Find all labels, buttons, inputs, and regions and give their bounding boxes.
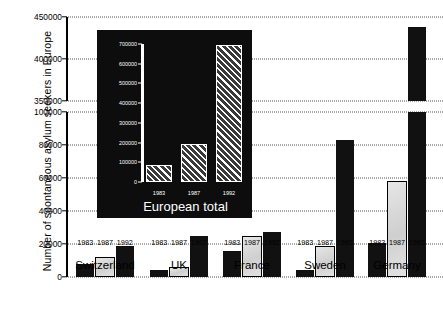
x-axis-year-label: 1983 [76, 238, 95, 247]
y-axis-tick-label: 40000 [39, 206, 62, 216]
x-axis-year-label: 1983 [223, 238, 242, 247]
x-axis-year-label: 1987 [96, 238, 115, 247]
inset-bar-1992[interactable] [216, 45, 242, 182]
x-axis-year-label: 1983 [368, 238, 387, 247]
inset-caption: European total [123, 199, 248, 214]
y-axis-tick-labels: 4500004000003500001000008000060000400002… [14, 0, 62, 325]
inset-y-tick-label: 100000 [97, 159, 137, 165]
bar-group-bars [368, 0, 426, 277]
inset-y-tick-label: 600000 [97, 61, 137, 67]
x-axis-year-labels: 198319871992 [368, 238, 426, 247]
inset-y-tick-label: 700000 [97, 41, 137, 47]
y-axis-segment [66, 112, 68, 277]
bar-sweden-1983[interactable] [296, 270, 314, 277]
bar-group-bars [296, 0, 354, 277]
x-axis-year-labels: 198319871992 [223, 238, 281, 247]
bar-sweden-1992[interactable] [336, 140, 354, 277]
x-axis-year-label: 1992 [262, 238, 281, 247]
inset-european-total-chart: 7000006000005000004000003000002000001000… [97, 30, 252, 218]
y-axis-tick-label: 350000 [34, 96, 62, 106]
bar-group-sweden: 198319871992Sweden [296, 0, 354, 277]
inset-y-tick-mark [138, 63, 142, 64]
bar-segment-lower [408, 112, 426, 277]
x-axis-year-label: 1987 [243, 238, 262, 247]
inset-y-tick-label: 400000 [97, 100, 137, 106]
bar-group-germany: 198319871992Germany [368, 0, 426, 277]
inset-y-tick-mark [138, 162, 142, 163]
x-axis-year-label: 1992 [115, 238, 134, 247]
x-axis-year-label: 1992 [407, 238, 426, 247]
inset-bar-1983[interactable] [146, 165, 172, 182]
inset-plot-area [146, 44, 242, 182]
asylum-seekers-bar-chart: Number of spontaneous asylum seekers in … [0, 0, 443, 325]
y-axis-segment [66, 17, 68, 101]
y-axis-tick-label: 100000 [34, 107, 62, 117]
inset-y-tick-label: 0 [97, 179, 137, 185]
x-axis-year-label: 1983 [150, 238, 169, 247]
x-axis-year-label: 1992 [189, 238, 208, 247]
x-axis-year-label: 1992 [335, 238, 354, 247]
inset-bar-1987[interactable] [181, 144, 207, 182]
x-axis-year-label: 1987 [170, 238, 189, 247]
y-axis-tick-label: 450000 [34, 12, 62, 22]
inset-y-tick-mark [138, 122, 142, 123]
x-axis-year-label: 1983 [296, 238, 315, 247]
inset-y-tick-label: 500000 [97, 80, 137, 86]
bar-segment-upper [408, 27, 426, 101]
x-axis-year-labels: 198319871992 [150, 238, 208, 247]
inset-year-label: 1987 [181, 190, 207, 196]
inset-bar-series [146, 44, 242, 182]
inset-y-tick-mark [138, 83, 142, 84]
y-axis-tick-label: 80000 [39, 140, 62, 150]
inset-y-tick-mark [138, 103, 142, 104]
y-axis-tick-label: 400000 [34, 54, 62, 64]
y-axis-tick-label: 60000 [39, 173, 62, 183]
bar-germany-1992[interactable] [408, 0, 426, 277]
inset-y-tick-mark [138, 142, 142, 143]
inset-y-tick-mark [138, 44, 142, 45]
x-axis-year-label: 1987 [388, 238, 407, 247]
x-axis-year-label: 1987 [316, 238, 335, 247]
x-axis-year-labels: 198319871992 [296, 238, 354, 247]
inset-y-tick-mark [138, 182, 142, 183]
x-axis-year-labels: 198319871992 [76, 238, 134, 247]
y-axis-tick-label: 20000 [39, 239, 62, 249]
inset-x-axis-year-labels: 198319871992 [146, 190, 242, 196]
country-label-germany: Germany [354, 259, 440, 271]
inset-y-tick-label: 300000 [97, 120, 137, 126]
inset-y-tick-label: 200000 [97, 140, 137, 146]
inset-year-label: 1983 [146, 190, 172, 196]
inset-year-label: 1992 [216, 190, 242, 196]
